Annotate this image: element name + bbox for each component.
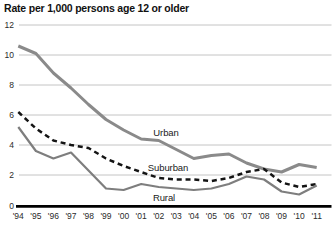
- x-tick-label-10: '10: [294, 211, 305, 221]
- y-tick-label-8: 8: [9, 80, 14, 90]
- x-tick-label-08: '08: [258, 211, 269, 221]
- x-tick-label-00: '00: [118, 211, 129, 221]
- y-tick-label-12: 12: [5, 20, 15, 30]
- series-label-suburban: Suburban: [148, 162, 188, 173]
- y-tick-label-4: 4: [9, 140, 14, 150]
- x-tick-label-07: '07: [241, 211, 252, 221]
- x-tick-label-06: '06: [223, 211, 234, 221]
- chart-figure: Rate per 1,000 persons age 12 or older 0…: [0, 0, 334, 225]
- line-chart-canvas: 024681012'94'95'96'97'98'99'00'01'02'03'…: [0, 0, 334, 225]
- x-tick-label-02: '02: [153, 211, 164, 221]
- x-tick-label-98: '98: [83, 211, 94, 221]
- y-tick-label-10: 10: [5, 50, 15, 60]
- urban-series-line: [18, 46, 316, 172]
- x-tick-label-97: '97: [65, 211, 76, 221]
- x-tick-label-04: '04: [188, 211, 199, 221]
- y-tick-label-0: 0: [9, 201, 14, 211]
- series-label-urban: Urban: [153, 127, 178, 138]
- x-tick-label-96: '96: [48, 211, 59, 221]
- x-tick-label-03: '03: [171, 211, 182, 221]
- suburban-series-line: [18, 112, 316, 187]
- x-tick-label-95: '95: [30, 211, 41, 221]
- y-tick-label-6: 6: [9, 110, 14, 120]
- x-tick-label-01: '01: [136, 211, 147, 221]
- x-tick-label-94: '94: [13, 211, 24, 221]
- x-tick-label-99: '99: [101, 211, 112, 221]
- y-tick-label-2: 2: [9, 170, 14, 180]
- x-tick-label-05: '05: [206, 211, 217, 221]
- series-label-rural: Rural: [153, 192, 175, 203]
- x-tick-label-11: '11: [311, 211, 322, 221]
- x-tick-label-09: '09: [276, 211, 287, 221]
